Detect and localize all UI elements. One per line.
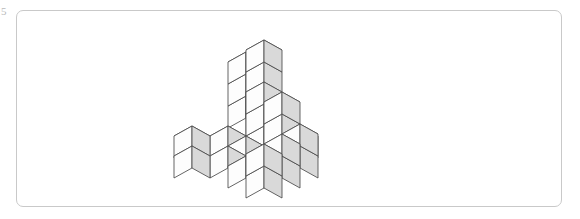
isometric-cube-scene xyxy=(16,10,562,207)
figure-label: 5 xyxy=(1,4,8,18)
cube-assembly-drawing xyxy=(16,10,562,207)
figure-root: 5 xyxy=(0,0,580,219)
